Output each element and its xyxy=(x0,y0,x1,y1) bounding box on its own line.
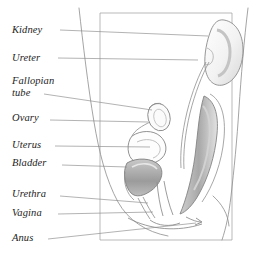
label-uterus: Uterus xyxy=(12,139,41,151)
label-urethra: Urethra xyxy=(12,188,46,200)
urethra-tube-a xyxy=(138,198,150,219)
leader-line-vagina xyxy=(58,212,153,214)
urethra-group xyxy=(138,197,155,219)
anatomy-figure: KidneyUreterFallopiantubeOvaryUterusBlad… xyxy=(0,0,259,257)
label-ovary: Ovary xyxy=(12,112,39,124)
kidney-group xyxy=(205,20,243,85)
rectum-shape xyxy=(180,96,217,214)
leader-line-ovary xyxy=(50,120,148,122)
anus-group xyxy=(128,217,202,229)
label-fallopian-tube-line2: tube xyxy=(12,87,30,99)
leader-line-urethra xyxy=(60,196,148,203)
vaginal-opening xyxy=(150,220,180,225)
label-ureter: Ureter xyxy=(12,52,40,64)
label-vagina: Vagina xyxy=(12,207,42,219)
label-bladder: Bladder xyxy=(12,157,47,169)
ovary-group xyxy=(145,101,174,134)
urethra-tube-b xyxy=(143,197,155,218)
leader-line-anus xyxy=(48,223,196,239)
label-kidney: Kidney xyxy=(12,24,42,36)
leader-line-fallopian-tube xyxy=(44,94,152,110)
label-anus: Anus xyxy=(12,232,33,244)
bladder-group xyxy=(124,159,161,200)
label-fallopian-tube: Fallopian xyxy=(12,75,54,87)
vagina-wall-posterior xyxy=(164,181,173,215)
kidney-shape xyxy=(205,20,243,85)
leader-line-ureter xyxy=(58,58,198,60)
vagina-wall-anterior xyxy=(157,182,163,216)
leader-line-bladder xyxy=(62,165,127,167)
ovary-shape xyxy=(145,101,174,134)
